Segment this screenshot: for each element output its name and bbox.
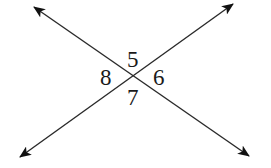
angle-label-7: 7 — [127, 85, 139, 110]
intersecting-lines-diagram: 5 6 7 8 — [0, 0, 271, 168]
angle-label-6: 6 — [153, 65, 165, 90]
angle-label-5: 5 — [127, 47, 139, 72]
line-a — [34, 7, 249, 156]
line-b — [20, 4, 233, 157]
angle-label-8: 8 — [100, 65, 112, 90]
